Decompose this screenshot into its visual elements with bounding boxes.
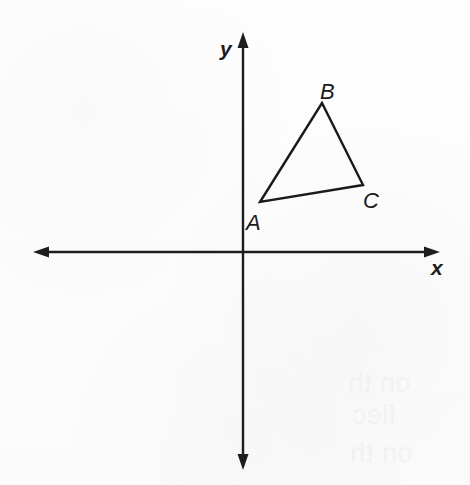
figure-canvas: on th flec on th x y A B C — [0, 0, 470, 485]
vertex-label-a: A — [244, 210, 261, 235]
y-axis-arrow-down — [238, 454, 249, 470]
coordinate-plane-svg: x y A B C — [0, 0, 470, 485]
vertex-label-b: B — [320, 79, 335, 104]
y-axis-label: y — [219, 37, 233, 60]
x-axis-arrow-left — [33, 247, 49, 258]
x-axis-group: x — [33, 247, 444, 280]
vertex-label-c: C — [363, 188, 379, 213]
y-axis-arrow-up — [238, 32, 249, 48]
triangle-abc-outline — [260, 103, 363, 202]
x-axis-label: x — [430, 256, 444, 279]
triangle-abc — [260, 103, 363, 202]
